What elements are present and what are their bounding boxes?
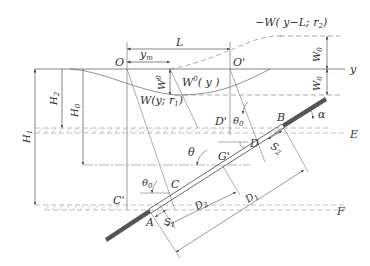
label-W0-bottom: W0: [311, 76, 324, 91]
label-theta: θ: [188, 146, 195, 159]
label-S2: S2: [268, 140, 285, 157]
layer-F: [35, 205, 345, 210]
label-O-prime: O': [233, 56, 245, 69]
label-W0-curve: W0( y ): [182, 75, 220, 89]
label-W-curve: W(y; r1): [140, 94, 183, 108]
H-dimensions: [35, 69, 83, 205]
label-alpha: α: [318, 108, 326, 121]
label-G-prime: G': [218, 150, 230, 163]
label-neg-W-curve: −W( y−L; r2): [255, 16, 327, 30]
label-W0-top: W0: [311, 47, 324, 62]
label-theta0-upper: θ0: [233, 115, 244, 128]
label-D1: D1: [242, 189, 260, 207]
label-H2: H2: [48, 91, 61, 106]
label-A: A: [145, 216, 154, 229]
label-C-prime: C': [113, 194, 124, 207]
label-F: F: [336, 205, 345, 218]
label-B: B: [276, 111, 285, 124]
label-O: O: [115, 56, 124, 69]
label-ym: ym: [139, 48, 153, 62]
label-C: C: [171, 178, 180, 191]
diagram-svg: O O' y L ym W0 W0( y ) W(y; r1) −W( y−L;…: [0, 0, 370, 266]
label-theta0-lower: θ0: [142, 177, 153, 190]
diagram-canvas: O O' y L ym W0 W0( y ) W(y; r1) −W( y−L;…: [0, 0, 370, 266]
label-S1: S1: [164, 216, 175, 229]
label-H1: H1: [21, 130, 34, 144]
label-W0-vertical: W0: [155, 75, 167, 90]
label-D: D: [249, 137, 259, 150]
label-E: E: [349, 128, 358, 141]
label-H0: H0: [69, 103, 82, 118]
label-y-axis: y: [349, 63, 357, 76]
labels: O O' y L ym W0 W0( y ) W(y; r1) −W( y−L;…: [21, 16, 358, 229]
layer-E: [35, 128, 345, 133]
label-D-prime: D': [214, 115, 227, 128]
label-D2: D2: [192, 196, 210, 214]
label-L: L: [175, 36, 183, 49]
